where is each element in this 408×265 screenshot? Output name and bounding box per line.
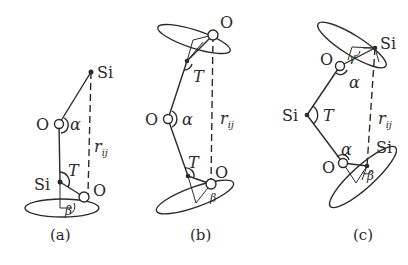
atom-o-low (339, 159, 348, 168)
atom-si-low (365, 164, 370, 169)
label-alpha: α (70, 115, 81, 134)
label-si-low: Si (34, 175, 50, 194)
label-T-low: T (188, 153, 200, 172)
label-si-top: Si (97, 63, 113, 82)
label-T: T (68, 161, 80, 180)
atom-si-low (58, 180, 63, 185)
atom-o-top (208, 30, 218, 40)
label-alpha: α (182, 110, 193, 129)
caption-a: (a) (50, 226, 71, 244)
label-T-top: T (193, 67, 205, 86)
caption-c: (c) (353, 226, 373, 244)
label-si-top: Si (380, 34, 396, 53)
caption-b: (b) (190, 226, 211, 244)
label-beta: β (366, 169, 374, 183)
tetra-line-bot-1 (188, 176, 196, 203)
label-o-mid: O (145, 110, 158, 129)
label-o-low: O (93, 181, 106, 200)
label-o-mid: O (36, 115, 49, 134)
atom-si-mid (305, 113, 310, 118)
label-si-low: Si (376, 138, 392, 157)
atom-o-mid (55, 120, 64, 129)
label-beta: β (64, 204, 72, 218)
atom-si-low (186, 174, 191, 179)
label-rij: rij (378, 109, 392, 130)
label-rij: rij (220, 109, 234, 130)
label-beta: β (209, 192, 216, 205)
label-o-low: O (322, 158, 335, 177)
bond-si-top-o-top (340, 48, 375, 66)
label-gamma: γ (349, 52, 356, 65)
distance-rij-dashed (88, 72, 91, 194)
atom-o-mid (164, 115, 173, 124)
atom-si-top (185, 59, 190, 64)
label-rij: rij (94, 137, 108, 158)
si-o-geometry-figure: Si O α rij T Si O β (a) (0, 0, 408, 265)
label-alpha-low: α (341, 140, 352, 159)
label-o-top: O (220, 13, 233, 32)
panel-c: Si O γ α Si T rij α Si O β (c) (282, 15, 403, 244)
label-si-mid: Si (282, 106, 298, 125)
bond-o-si-vertical (59, 124, 60, 182)
label-T: T (323, 106, 335, 125)
distance-rij-dashed (211, 35, 213, 184)
panel-b: O T O α rij T O β (b) (145, 13, 237, 244)
tetra-line-bot-2 (356, 166, 367, 183)
panel-a: Si O α rij T Si O β (a) (25, 63, 113, 244)
atom-o-low (79, 192, 89, 202)
atom-si-top (373, 46, 378, 51)
label-o-low: O (215, 163, 228, 182)
atom-si-top (89, 70, 94, 75)
angle-T-arc (313, 106, 318, 124)
atom-o-top (336, 62, 345, 71)
label-o-top: O (320, 50, 333, 69)
label-alpha-top: α (349, 73, 360, 92)
